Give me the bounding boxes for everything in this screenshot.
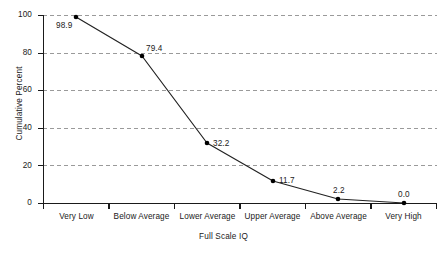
- data-point-upper-average: [271, 179, 276, 184]
- gridlines: [43, 16, 437, 166]
- x-tick-label-very-high: Very High: [363, 212, 444, 221]
- data-label-lower-average: 32.2: [213, 139, 229, 148]
- data-point-lower-average: [205, 141, 210, 146]
- x-axis-title: Full Scale IQ: [0, 232, 447, 241]
- y-axis: [38, 16, 44, 204]
- y-tick-label-100: 100: [2, 10, 32, 19]
- data-line-series: [76, 17, 404, 203]
- data-point-very-high: [402, 201, 407, 206]
- data-point-very-low: [74, 15, 79, 20]
- cumulative-percent-line-chart: 100 80 60 40 20 0 Cumulative Percent Ver…: [0, 0, 447, 253]
- x-axis: [43, 204, 437, 210]
- data-label-above-average: 2.2: [333, 186, 345, 195]
- data-markers: [74, 15, 407, 206]
- data-label-upper-average: 11.7: [279, 176, 295, 185]
- data-label-very-high: 0.0: [398, 190, 410, 199]
- data-label-very-low: 98.9: [56, 21, 72, 30]
- y-axis-title: Cumulative Percent: [15, 44, 24, 164]
- data-point-below-average: [140, 54, 145, 59]
- y-tick-label-0: 0: [2, 198, 32, 207]
- data-point-above-average: [336, 197, 341, 202]
- data-label-below-average: 79.4: [146, 44, 162, 53]
